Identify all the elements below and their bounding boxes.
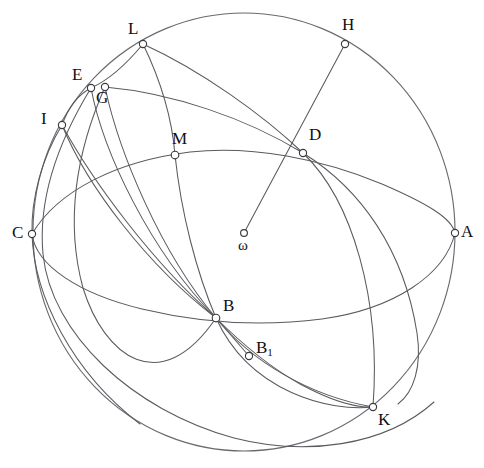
point-label-E: E xyxy=(72,66,82,83)
great-circle-G-B1-K xyxy=(74,87,216,363)
vertex-dot-D[interactable] xyxy=(299,149,306,156)
vertex-dot-L[interactable] xyxy=(139,40,146,47)
point-label-B1-subscript: 1 xyxy=(267,346,273,358)
spherical-geometry-figure: A B B1 C D E G H I K L M ω xyxy=(0,0,484,468)
radius-omega-to-H xyxy=(244,44,345,233)
vertex-dot-H[interactable] xyxy=(341,40,348,47)
chord-B-to-B1 xyxy=(216,318,249,356)
vertex-dot-B1[interactable] xyxy=(245,352,252,359)
point-label-K: K xyxy=(378,411,390,428)
point-label-omega: ω xyxy=(238,238,248,253)
point-label-B1: B1 xyxy=(256,339,273,356)
point-label-A: A xyxy=(461,223,473,240)
vertex-dot-omega[interactable] xyxy=(241,230,248,237)
point-label-B: B xyxy=(223,297,234,314)
vertex-dot-B[interactable] xyxy=(212,314,220,322)
vertex-dot-K[interactable] xyxy=(369,403,376,410)
point-label-D: D xyxy=(309,126,321,143)
point-label-M: M xyxy=(172,130,187,147)
point-label-G: G xyxy=(96,89,108,106)
vertex-dot-I[interactable] xyxy=(58,121,65,128)
vertex-dot-M[interactable] xyxy=(171,151,179,159)
point-label-I: I xyxy=(41,110,47,127)
point-label-C: C xyxy=(12,224,23,241)
vertex-dot-A[interactable] xyxy=(451,229,458,236)
meridian-G-to-B xyxy=(105,87,216,318)
great-circle-equator-front xyxy=(32,150,455,234)
limb-arc-I-to-C xyxy=(32,125,140,424)
point-label-B1-base: B xyxy=(256,338,267,357)
vertex-dot-E[interactable] xyxy=(87,84,94,91)
point-label-L: L xyxy=(128,20,138,37)
meridian-E-to-B xyxy=(91,88,216,318)
vertex-dot-C[interactable] xyxy=(28,230,35,237)
point-label-H: H xyxy=(342,16,354,33)
